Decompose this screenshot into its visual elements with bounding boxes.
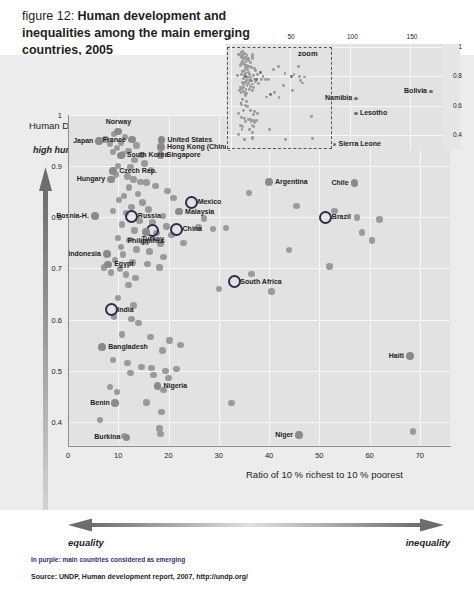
scatter-point bbox=[135, 320, 141, 326]
zoom-label: zoom bbox=[298, 49, 318, 58]
figure-title-prefix: figure 12: bbox=[22, 9, 78, 23]
scatter-point-labeled bbox=[91, 212, 99, 220]
inset-x-axis-tick-label: 50 bbox=[287, 33, 294, 40]
scatter-point-label: Burkina bbox=[94, 433, 120, 440]
scatter-point-label: Philippines bbox=[127, 237, 164, 244]
scatter-point bbox=[108, 269, 114, 275]
scatter-point-labeled bbox=[142, 228, 150, 236]
scatter-point bbox=[126, 184, 132, 190]
scatter-point bbox=[110, 357, 116, 363]
scatter-point-label: Malaysia bbox=[185, 208, 214, 215]
scatter-point bbox=[125, 282, 131, 288]
scatter-point-labeled bbox=[406, 352, 414, 360]
inset-scatter-point-labeled bbox=[429, 90, 432, 93]
scatter-point bbox=[124, 360, 130, 366]
scatter-point-labeled bbox=[123, 434, 131, 442]
x-axis-tick-label: 50 bbox=[309, 451, 329, 460]
scatter-point-label: Singapore bbox=[166, 151, 200, 158]
scatter-point bbox=[135, 191, 141, 197]
x-axis-tick-label: 10 bbox=[108, 451, 128, 460]
inset-scatter-point-label: Bolivia bbox=[404, 87, 427, 94]
scatter-point bbox=[228, 400, 234, 406]
scatter-point-label: Russia bbox=[138, 212, 161, 219]
y-axis-tick-label: 1 bbox=[38, 111, 62, 120]
scatter-point bbox=[114, 389, 120, 395]
scatter-point-labeled bbox=[107, 176, 115, 184]
scatter-point-label: Egypt bbox=[114, 260, 133, 267]
inset-y-axis-tick-label: 0.4 bbox=[453, 131, 462, 138]
scatter-point bbox=[146, 248, 152, 254]
scatter-point-labeled bbox=[95, 137, 103, 145]
scatter-point-label: China bbox=[183, 225, 202, 232]
scatter-point-labeled bbox=[128, 136, 136, 144]
scatter-point-labeled bbox=[265, 178, 273, 186]
scatter-point-label: South Korea bbox=[127, 151, 169, 158]
scatter-point bbox=[410, 428, 416, 434]
scatter-point bbox=[131, 227, 137, 233]
scatter-point-label: Nigeria bbox=[163, 382, 187, 389]
scatter-point-labeled bbox=[104, 261, 112, 269]
scatter-point bbox=[293, 203, 299, 209]
scatter-point bbox=[130, 176, 136, 182]
gridline-vertical bbox=[169, 115, 170, 445]
scatter-point-emerging bbox=[319, 211, 332, 224]
scatter-point bbox=[246, 190, 252, 196]
scatter-point-label: Niger bbox=[275, 431, 293, 438]
scatter-point-label: Japan bbox=[73, 137, 93, 144]
scatter-point-label: Hong Kong (China) bbox=[167, 143, 231, 150]
scatter-point-label: Czech Rep. bbox=[119, 167, 157, 174]
scatter-point-label: Mexico bbox=[198, 198, 222, 205]
y-axis-line bbox=[68, 115, 69, 447]
inset-zoom-region-box bbox=[227, 47, 332, 149]
scatter-point-label: India bbox=[117, 306, 133, 313]
scatter-point bbox=[223, 225, 229, 231]
scatter-point bbox=[354, 214, 360, 220]
scatter-point bbox=[115, 235, 121, 241]
scatter-point-label: South Africa bbox=[240, 278, 281, 285]
gridline-vertical bbox=[319, 115, 320, 445]
scatter-point bbox=[110, 208, 116, 214]
inset-y-axis-tick-label: 0.6 bbox=[453, 102, 462, 109]
gridline-vertical bbox=[370, 115, 371, 445]
scatter-point bbox=[157, 431, 163, 437]
scatter-point bbox=[158, 409, 164, 415]
inset-x-axis-tick-label: 100 bbox=[347, 33, 358, 40]
scatter-point bbox=[148, 365, 154, 371]
scatter-point bbox=[128, 316, 134, 322]
purple-legend-note: In purple: main countries considered as … bbox=[31, 556, 185, 563]
inset-gridline-vertical bbox=[410, 44, 411, 150]
scatter-point-label: Benin bbox=[90, 399, 109, 406]
scatter-point bbox=[164, 188, 170, 194]
y-axis-tick-label: 0.4 bbox=[38, 418, 62, 427]
scatter-point bbox=[138, 364, 144, 370]
scatter-point-label: Indonesia bbox=[68, 250, 101, 257]
gridline-horizontal bbox=[68, 268, 450, 269]
scatter-point bbox=[150, 372, 156, 378]
gridline-horizontal bbox=[68, 371, 450, 372]
scatter-point bbox=[152, 183, 158, 189]
scatter-point bbox=[143, 179, 149, 185]
source-note: Source: UNDP, Human development report, … bbox=[31, 573, 248, 580]
inset-x-axis-tick-label: 150 bbox=[407, 33, 418, 40]
inset-scatter-point-label: Lesotho bbox=[360, 109, 387, 116]
scatter-point bbox=[369, 237, 375, 243]
inset-scatter-point-labeled bbox=[354, 112, 357, 115]
y-axis-tick-label: 0.8 bbox=[38, 213, 62, 222]
scatter-point-emerging bbox=[228, 275, 241, 288]
y-axis-tick-label: 0.6 bbox=[38, 316, 62, 325]
scatter-point bbox=[163, 223, 169, 229]
inset-scatter-point-label: Sierra Leone bbox=[339, 140, 381, 147]
scatter-point bbox=[210, 226, 216, 232]
scatter-point bbox=[160, 254, 166, 260]
equality-label: equality bbox=[68, 537, 104, 548]
scatter-point bbox=[166, 337, 172, 343]
scatter-point bbox=[119, 331, 125, 337]
y-axis-tick-label: 0.9 bbox=[38, 162, 62, 171]
gridline-vertical bbox=[219, 115, 220, 445]
gridline-horizontal bbox=[68, 320, 450, 321]
y-axis-tick-label: 0.7 bbox=[38, 264, 62, 273]
scatter-point bbox=[170, 195, 176, 201]
scatter-point bbox=[147, 334, 153, 340]
x-axis-tick-label: 40 bbox=[259, 451, 279, 460]
scatter-point bbox=[139, 199, 145, 205]
